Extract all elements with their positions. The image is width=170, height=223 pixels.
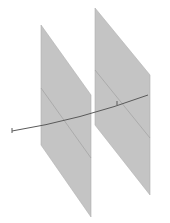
left-plane [41,25,91,217]
parallel-planes-diagram [0,0,170,223]
right-plane [95,8,150,195]
